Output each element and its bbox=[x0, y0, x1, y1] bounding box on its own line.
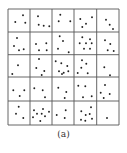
point-dot bbox=[83, 48, 85, 50]
grid-dots bbox=[11, 14, 114, 122]
point-dot bbox=[109, 43, 111, 45]
point-dot bbox=[89, 113, 91, 115]
point-dot bbox=[32, 116, 34, 118]
point-dot bbox=[16, 37, 18, 39]
point-dot bbox=[82, 96, 84, 98]
grid-cell bbox=[105, 19, 114, 30]
point-dot bbox=[48, 111, 50, 113]
figure-caption: (a) bbox=[0, 129, 127, 139]
grid-cell bbox=[55, 60, 70, 75]
grid-cell bbox=[79, 16, 93, 28]
point-dot bbox=[39, 120, 41, 122]
point-dot bbox=[67, 70, 69, 72]
point-dot bbox=[41, 113, 43, 115]
point-dot bbox=[60, 62, 62, 64]
point-dot bbox=[85, 63, 87, 65]
grid-cell bbox=[103, 66, 111, 76]
point-dot bbox=[84, 120, 86, 122]
point-dot bbox=[90, 106, 92, 108]
grid-cell bbox=[57, 35, 70, 53]
point-dot bbox=[22, 117, 24, 119]
point-dot bbox=[91, 95, 93, 97]
point-dot bbox=[64, 97, 66, 99]
point-dot bbox=[106, 117, 108, 119]
point-dot bbox=[36, 113, 38, 115]
point-dot bbox=[112, 28, 114, 30]
point-dot bbox=[44, 96, 46, 98]
point-dot bbox=[12, 89, 14, 91]
point-dot bbox=[103, 66, 105, 68]
point-dot bbox=[43, 25, 45, 27]
point-dot bbox=[91, 16, 93, 18]
point-dot bbox=[85, 42, 87, 44]
grid-cell bbox=[57, 87, 67, 99]
point-dot bbox=[15, 113, 17, 115]
point-dot bbox=[105, 19, 107, 21]
point-dot bbox=[57, 48, 59, 50]
point-dot bbox=[58, 20, 60, 22]
point-dot bbox=[113, 50, 115, 52]
point-dot bbox=[109, 74, 111, 76]
grid-cell bbox=[56, 109, 67, 119]
grid-cell bbox=[104, 39, 115, 52]
grid-cell bbox=[11, 64, 19, 75]
grid-cell bbox=[13, 37, 25, 51]
point-dot bbox=[91, 118, 93, 120]
point-dot bbox=[61, 73, 63, 75]
point-dot bbox=[14, 21, 16, 23]
point-dot bbox=[77, 72, 79, 74]
point-dot bbox=[77, 85, 79, 87]
grid-cell bbox=[12, 89, 25, 97]
point-dot bbox=[44, 115, 46, 117]
point-dot bbox=[38, 49, 40, 51]
point-dot bbox=[58, 70, 60, 72]
point-dot bbox=[57, 87, 59, 89]
grid-cell bbox=[37, 15, 50, 27]
point-dot bbox=[23, 48, 25, 50]
grid-cell bbox=[35, 42, 48, 51]
point-dot bbox=[80, 110, 82, 112]
point-dot bbox=[23, 89, 25, 91]
point-dot bbox=[45, 42, 47, 44]
point-dot bbox=[109, 93, 111, 95]
grid-lines bbox=[8, 9, 119, 125]
point-dot bbox=[24, 22, 26, 24]
point-dot bbox=[89, 38, 91, 40]
point-dot bbox=[38, 24, 40, 26]
grid-cell bbox=[58, 14, 72, 22]
point-dot bbox=[59, 35, 61, 37]
point-dot bbox=[42, 108, 44, 110]
point-dot bbox=[85, 23, 87, 25]
point-dot bbox=[68, 51, 70, 53]
point-dot bbox=[42, 89, 44, 91]
point-dot bbox=[65, 91, 67, 93]
grid-cell bbox=[15, 106, 24, 119]
grid-cell bbox=[33, 87, 46, 98]
point-dot bbox=[100, 92, 102, 94]
point-dot bbox=[59, 14, 61, 16]
point-dot bbox=[84, 85, 86, 87]
grid-cell bbox=[77, 59, 89, 74]
point-dot bbox=[81, 26, 83, 28]
point-dot bbox=[91, 42, 93, 44]
point-dot bbox=[80, 67, 82, 69]
point-dot bbox=[79, 18, 81, 20]
point-dot bbox=[107, 49, 109, 51]
point-dot bbox=[85, 114, 87, 116]
point-dot bbox=[33, 87, 35, 89]
point-dot bbox=[11, 73, 13, 75]
point-dot bbox=[41, 74, 43, 76]
point-dot bbox=[37, 15, 39, 17]
grid-cell bbox=[32, 108, 50, 122]
point-dot bbox=[22, 14, 24, 16]
point-dot bbox=[104, 84, 106, 86]
grid-cell bbox=[14, 14, 26, 23]
point-dot bbox=[46, 49, 48, 51]
grid-cell bbox=[35, 58, 45, 76]
grid-cell bbox=[100, 84, 111, 99]
point-grid-figure: (a) bbox=[0, 0, 127, 153]
point-dot bbox=[64, 117, 66, 119]
point-dot bbox=[19, 95, 21, 97]
point-dot bbox=[35, 43, 37, 45]
point-dot bbox=[103, 97, 105, 99]
